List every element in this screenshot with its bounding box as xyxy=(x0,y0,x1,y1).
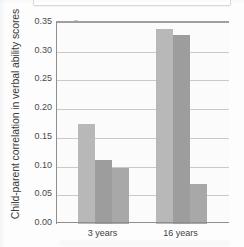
chart-page: Child-parent correlation in verbal abili… xyxy=(0,0,244,247)
bar-series-container xyxy=(57,23,229,224)
y-tick-label: 0.20 xyxy=(22,102,52,112)
cropped-legend-box xyxy=(33,0,231,6)
y-tick-label: 0.25 xyxy=(22,73,52,83)
bar[interactable] xyxy=(190,184,207,224)
bar[interactable] xyxy=(112,168,129,224)
y-tick-label: 0.35 xyxy=(22,16,52,26)
y-tick-label: 0.15 xyxy=(22,131,52,141)
y-axis-title: Child-parent correlation in verbal abili… xyxy=(9,0,21,229)
bar[interactable] xyxy=(156,29,173,224)
x-axis-line xyxy=(56,222,229,223)
plot-area xyxy=(56,21,229,224)
bar[interactable] xyxy=(95,160,112,224)
y-tick-label: 0.00 xyxy=(22,217,52,227)
bar[interactable] xyxy=(173,35,190,225)
y-axis-tick-labels: 0.350.300.250.200.150.100.050.00 xyxy=(22,14,52,229)
y-tick-label: 0.10 xyxy=(22,160,52,170)
y-tick-label: 0.05 xyxy=(22,188,52,198)
bar-group-16-years xyxy=(156,23,207,224)
x-category-label: 16 years xyxy=(135,228,226,238)
bar-group-3-years xyxy=(78,23,129,224)
y-tick-label: 0.30 xyxy=(22,45,52,55)
bar[interactable] xyxy=(78,124,95,225)
scan-smudge xyxy=(60,240,230,246)
